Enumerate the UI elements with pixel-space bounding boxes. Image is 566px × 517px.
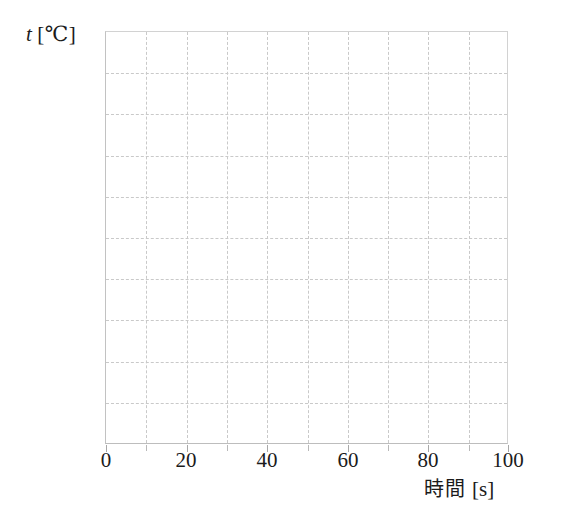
- grid-line-vertical: [388, 32, 389, 443]
- grid-line-horizontal: [106, 362, 507, 363]
- x-axis-tick-minor: [308, 445, 309, 451]
- x-tick-label-0: 0: [101, 450, 112, 471]
- x-tick-label-60: 60: [338, 450, 359, 471]
- y-axis-label-symbol: t: [26, 22, 37, 46]
- plot-area: [105, 31, 508, 444]
- grid-line-vertical: [469, 32, 470, 443]
- grid-line-vertical: [267, 32, 268, 443]
- x-axis-label: 時間[s]: [424, 479, 494, 500]
- grid-line-vertical: [146, 32, 147, 443]
- x-tick-label-100: 100: [492, 450, 524, 471]
- y-axis-label: t[℃]: [26, 24, 76, 45]
- grid-line-vertical: [428, 32, 429, 443]
- grid-line-vertical: [348, 32, 349, 443]
- grid-line-horizontal: [106, 403, 507, 404]
- x-axis-label-name: 時間: [424, 477, 472, 501]
- x-axis-label-unit: [s]: [472, 477, 494, 501]
- x-tick-label-40: 40: [257, 450, 278, 471]
- grid-line-horizontal: [106, 114, 507, 115]
- x-tick-label-20: 20: [176, 450, 197, 471]
- grid-line-vertical: [187, 32, 188, 443]
- grid-line-horizontal: [106, 279, 507, 280]
- grid-line-horizontal: [106, 320, 507, 321]
- y-axis-label-unit: [℃]: [37, 22, 76, 46]
- chart-figure: t[℃] 0 20 40 60 80: [0, 0, 566, 517]
- grid-line-horizontal: [106, 238, 507, 239]
- x-axis-tick-minor: [469, 445, 470, 451]
- grid-line-horizontal: [106, 156, 507, 157]
- grid-line-horizontal: [106, 73, 507, 74]
- grid-line-vertical: [308, 32, 309, 443]
- grid-line-vertical: [227, 32, 228, 443]
- x-axis-tick-minor: [227, 445, 228, 451]
- x-axis-tick-minor: [146, 445, 147, 451]
- grid-line-horizontal: [106, 197, 507, 198]
- x-axis-tick-minor: [388, 445, 389, 451]
- x-tick-label-80: 80: [418, 450, 439, 471]
